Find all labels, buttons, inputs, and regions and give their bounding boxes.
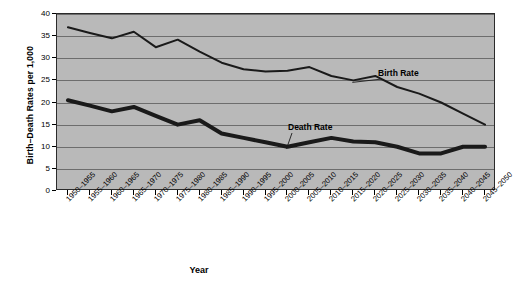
x-axis-title-label: Year <box>189 265 208 275</box>
y-axis-tick-mark <box>52 168 56 169</box>
annotation-label-birth-rate: Birth Rate <box>378 68 419 78</box>
y-axis-tick-mark <box>52 13 56 14</box>
y-axis-tick-mark <box>52 124 56 125</box>
annotation-label-death-rate: Death Rate <box>288 122 332 132</box>
y-axis-tick-label: 5 <box>4 163 50 172</box>
y-axis-tick-label: 40 <box>4 9 50 18</box>
birth-death-rate-line-chart: Birth–Death Rates per 1,000 051015202530… <box>0 0 518 287</box>
y-axis-tick-mark <box>52 79 56 80</box>
y-axis-tick-label: 15 <box>4 119 50 128</box>
y-axis-tick-label: 30 <box>4 53 50 62</box>
y-axis-tick-mark <box>52 146 56 147</box>
series-layer <box>57 14 496 191</box>
y-axis-tick-label: 20 <box>4 97 50 106</box>
plot-area <box>56 13 495 190</box>
y-axis-tick-mark <box>52 57 56 58</box>
y-axis-tick-label: 35 <box>4 31 50 40</box>
x-axis-title: Year <box>0 265 518 275</box>
series-line-death-rate <box>68 100 485 153</box>
y-axis-tick-label: 25 <box>4 75 50 84</box>
series-line-birth-rate <box>68 27 485 124</box>
y-axis-tick-label: 10 <box>4 141 50 150</box>
y-axis-tick-mark <box>52 102 56 103</box>
y-axis-tick-mark <box>52 35 56 36</box>
y-axis-tick-label: 0 <box>4 186 50 195</box>
y-axis-tick-mark <box>52 190 56 191</box>
